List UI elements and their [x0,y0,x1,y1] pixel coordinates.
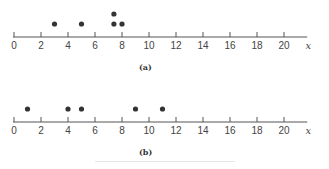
dot-plot-a-canvas: 02468101214161820x [0,0,329,60]
x-tick-label: 18 [251,40,263,51]
x-tick-label: 14 [197,40,209,51]
data-point [79,21,84,26]
x-tick-label: 10 [143,125,155,136]
caption-residue [95,161,235,162]
x-tick-label: 4 [65,125,71,136]
data-point [65,106,70,111]
x-tick-label: 20 [278,40,290,51]
x-tick-label: 4 [65,40,71,51]
panel-label-a: (a) [139,62,152,72]
x-tick-label: 6 [92,125,98,136]
x-tick-label: 12 [170,125,182,136]
x-tick-label: 14 [197,125,209,136]
x-tick-label: 20 [278,125,290,136]
data-point [79,106,84,111]
x-tick-label: 10 [143,40,155,51]
data-point [25,106,30,111]
x-tick-label: 2 [38,125,44,136]
x-tick-label: 8 [119,40,125,51]
x-tick-label: 0 [11,125,17,136]
x-tick-label: 0 [11,40,17,51]
data-point [111,11,116,16]
x-tick-label: 18 [251,125,263,136]
dot-plot-a: 02468101214161820x (a) [0,0,329,85]
x-tick-label: 2 [38,40,44,51]
x-tick-label: 16 [224,40,236,51]
data-point [160,106,165,111]
x-axis-label: x [305,40,311,51]
x-tick-label: 16 [224,125,236,136]
data-point [111,21,116,26]
x-tick-label: 6 [92,40,98,51]
x-tick-label: 8 [119,125,125,136]
data-point [133,106,138,111]
data-point [119,21,124,26]
dot-plot-b-canvas: 02468101214161820x [0,85,329,145]
x-axis-label: x [305,125,311,136]
x-tick-label: 12 [170,40,182,51]
data-point [52,21,57,26]
panel-label-b: (b) [139,147,152,157]
dot-plot-b: 02468101214161820x (b) [0,85,329,169]
